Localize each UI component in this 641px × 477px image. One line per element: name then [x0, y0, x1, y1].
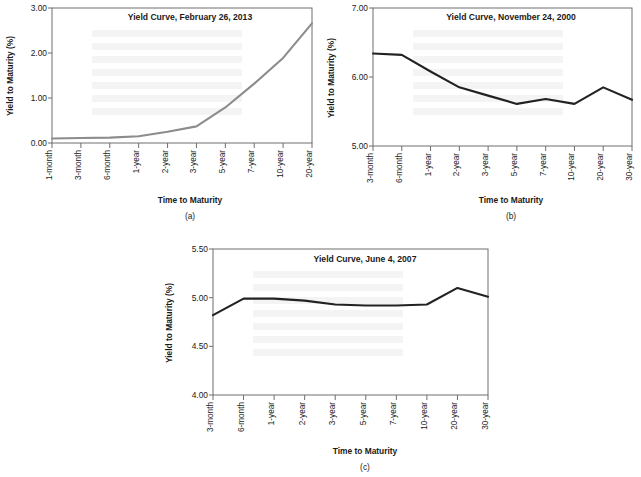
- panel-label-b: (b): [506, 211, 516, 221]
- x-tick-label: 7-year: [247, 150, 256, 173]
- chart-panel-c: 4.004.505.005.503-month6-month1-year2-ye…: [150, 238, 510, 477]
- y-tick-label: 5.00: [352, 141, 369, 151]
- chart-panel-b: 5.006.007.003-month6-month1-year2-year3-…: [321, 0, 641, 228]
- x-axis-title: Time to Maturity: [479, 195, 544, 205]
- y-axis-title: Yield to Maturity (%): [326, 38, 336, 118]
- x-tick-label: 1-year: [267, 402, 276, 425]
- x-tick-label: 20-year: [596, 153, 605, 181]
- x-tick-label: 3-month: [366, 153, 375, 183]
- x-tick-label: 2-year: [298, 402, 307, 425]
- x-tick-label: 6-month: [395, 153, 404, 183]
- y-tick-label: 4.00: [192, 390, 209, 400]
- bleed-line: [92, 30, 242, 37]
- yield-curve-chart-a: 0.001.002.003.001-month3-month6-month1-y…: [0, 0, 320, 228]
- x-tick-label: 3-month: [74, 150, 83, 180]
- chart-title: Yield Curve, February 26, 2013: [128, 12, 253, 22]
- y-tick-label: 1.00: [31, 93, 48, 103]
- page-bleed-through: [253, 271, 403, 356]
- bleed-line: [253, 271, 403, 278]
- x-tick-label: 7-year: [539, 153, 548, 176]
- x-tick-label: 30-year: [625, 153, 634, 181]
- bleed-line: [413, 108, 563, 115]
- bleed-line: [92, 95, 242, 102]
- bleed-line: [92, 82, 242, 89]
- y-tick-label: 5.00: [192, 293, 209, 303]
- x-axis-title: Time to Maturity: [333, 446, 398, 456]
- x-tick-label: 2-year: [452, 153, 461, 176]
- x-tick-label: 1-month: [45, 150, 54, 180]
- bleed-line: [413, 30, 563, 37]
- x-tick-label: 2-year: [161, 150, 170, 173]
- chart-title: Yield Curve, November 24, 2000: [446, 12, 576, 22]
- x-tick-label: 6-month: [103, 150, 112, 180]
- y-axis-title: Yield to Maturity (%): [164, 283, 174, 363]
- x-tick-label: 3-month: [206, 402, 215, 432]
- y-tick-label: 6.00: [352, 72, 369, 82]
- x-tick-label: 10-year: [276, 150, 285, 178]
- x-tick-label: 5-year: [359, 402, 368, 425]
- x-tick-label: 10-year: [420, 402, 429, 430]
- x-tick-label: 10-year: [567, 153, 576, 181]
- plot-frame: [373, 8, 632, 146]
- x-tick-label: 5-year: [510, 153, 519, 176]
- plot-frame: [213, 249, 488, 395]
- bleed-line: [253, 310, 403, 317]
- y-axis-title: Yield to Maturity (%): [5, 36, 15, 116]
- bleed-line: [413, 43, 563, 50]
- y-tick-label: 5.50: [192, 244, 209, 254]
- bleed-line: [253, 284, 403, 291]
- y-tick-label: 3.00: [31, 3, 48, 13]
- panel-label-c: (c): [360, 462, 370, 472]
- bleed-line: [413, 82, 563, 89]
- yield-curve-chart-c: 4.004.505.005.503-month6-month1-year2-ye…: [150, 238, 510, 477]
- x-tick-label: 5-year: [218, 150, 227, 173]
- x-tick-label: 30-year: [481, 402, 490, 430]
- x-tick-label: 3-year: [328, 402, 337, 425]
- y-tick-label: 7.00: [352, 3, 369, 13]
- x-tick-label: 6-month: [237, 402, 246, 432]
- x-tick-label: 20-year: [305, 150, 314, 178]
- x-tick-label: 7-year: [389, 402, 398, 425]
- bleed-line: [92, 69, 242, 76]
- bleed-line: [253, 336, 403, 343]
- chart-title: Yield Curve, June 4, 2007: [314, 254, 417, 264]
- x-tick-label: 1-year: [132, 150, 141, 173]
- x-tick-label: 3-year: [189, 150, 198, 173]
- y-tick-label: 4.50: [192, 341, 209, 351]
- x-tick-label: 3-year: [481, 153, 490, 176]
- data-series-line: [52, 23, 312, 138]
- panel-label-a: (a): [185, 211, 195, 221]
- bleed-line: [253, 323, 403, 330]
- bleed-line: [413, 56, 563, 63]
- bleed-line: [92, 56, 242, 63]
- bleed-line: [92, 43, 242, 50]
- bleed-line: [253, 349, 403, 356]
- yield-curve-chart-b: 5.006.007.003-month6-month1-year2-year3-…: [321, 0, 641, 228]
- x-tick-label: 20-year: [450, 402, 459, 430]
- y-tick-label: 2.00: [31, 48, 48, 58]
- x-axis-title: Time to Maturity: [158, 195, 223, 205]
- y-tick-label: 0.00: [31, 138, 48, 148]
- chart-panel-a: 0.001.002.003.001-month3-month6-month1-y…: [0, 0, 320, 228]
- x-tick-label: 1-year: [424, 153, 433, 176]
- page-bleed-through: [92, 30, 242, 115]
- page-bleed-through: [413, 30, 563, 115]
